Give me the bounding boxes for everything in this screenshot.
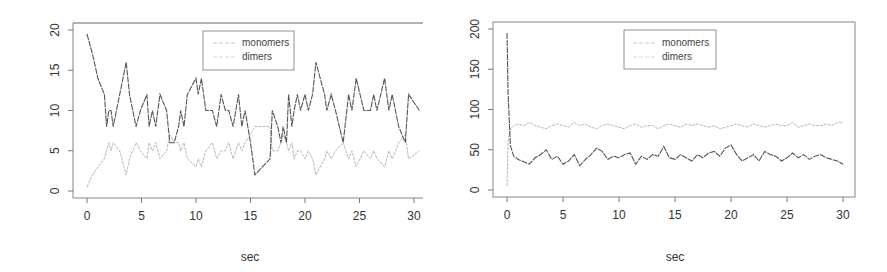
right-series-monomers — [507, 122, 843, 186]
left-legend: monomers dimers — [203, 31, 294, 70]
right-x-tick-label: 5 — [560, 208, 567, 222]
left-series-monomers — [87, 127, 419, 187]
right-y-tick-label: 150 — [468, 59, 482, 79]
right-legend: monomers dimers — [624, 30, 716, 69]
left-y-tick-label: 10 — [48, 104, 62, 118]
right-legend-box — [624, 30, 716, 69]
right-y-tick-label: 50 — [468, 143, 482, 157]
legend-label-monomers: monomers — [662, 37, 709, 48]
left-x-tick-label: 20 — [298, 209, 312, 223]
chart-canvas: 05101520253005101520 monomers dimers sec… — [0, 0, 887, 272]
right-x-tick-label: 25 — [780, 208, 794, 222]
left-x-tick-label: 0 — [84, 209, 91, 223]
right-y-tick-label: 100 — [468, 99, 482, 119]
left-y-tick-label: 20 — [48, 23, 62, 37]
legend-label-dimers: dimers — [242, 51, 272, 62]
left-plot: 05101520253005101520 monomers dimers sec — [48, 23, 423, 264]
right-x-tick-label: 20 — [724, 208, 738, 222]
right-y-tick-label: 0 — [468, 186, 482, 193]
right-y-tick-label: 200 — [468, 19, 482, 39]
right-plot: 051015202530050100150200 monomers dimers… — [468, 19, 855, 264]
left-x-tick-label: 25 — [353, 209, 367, 223]
right-x-tick-label: 0 — [504, 208, 511, 222]
left-y-tick-label: 5 — [48, 147, 62, 154]
left-x-tick-label: 15 — [244, 209, 258, 223]
left-y-tick-label: 15 — [48, 63, 62, 77]
right-x-tick-label: 30 — [836, 208, 850, 222]
right-x-tick-label: 10 — [612, 208, 626, 222]
legend-label-monomers: monomers — [242, 37, 289, 48]
left-x-axis-title: sec — [241, 250, 260, 264]
legend-label-dimers: dimers — [662, 51, 692, 62]
left-x-tick-label: 10 — [189, 209, 203, 223]
right-x-axis-title: sec — [666, 250, 685, 264]
left-x-tick-label: 30 — [407, 209, 421, 223]
left-y-tick-label: 0 — [48, 187, 62, 194]
left-x-tick-label: 5 — [138, 209, 145, 223]
right-x-tick-label: 15 — [668, 208, 682, 222]
